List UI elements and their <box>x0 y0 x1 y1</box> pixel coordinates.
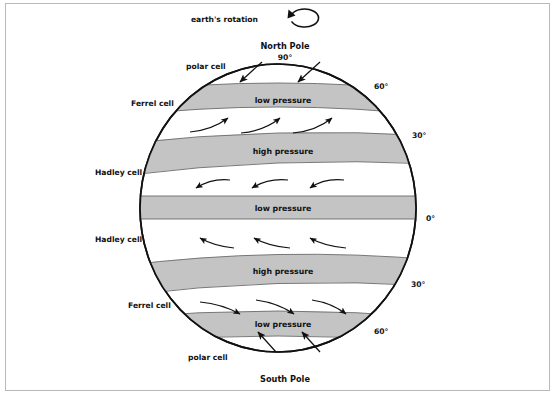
band-label-low-equator: low pressure <box>255 204 312 213</box>
north-pole-label: North Pole <box>260 41 310 51</box>
latitude-label-60n: 60° <box>374 82 389 91</box>
band-label-high-30s: high pressure <box>253 267 314 276</box>
earth-rotation-icon <box>288 9 319 27</box>
band-label-low-60s: low pressure <box>255 320 312 329</box>
cell-label-hadley-north: Hadley cell <box>95 168 142 177</box>
band-label-low-60n: low pressure <box>255 96 312 105</box>
cell-label-polar-north: polar cell <box>186 62 226 71</box>
cell-label-hadley-south: Hadley cell <box>95 235 142 244</box>
band-label-high-30n: high pressure <box>253 147 314 156</box>
cell-label-ferrel-north: Ferrel cell <box>131 99 174 108</box>
circulation-diagram: earth's rotation North Pole 90° polar ce… <box>0 0 555 396</box>
latitude-label-90n: 90° <box>278 53 293 62</box>
latitude-label-30s: 30° <box>411 280 426 289</box>
latitude-label-30n: 30° <box>412 131 427 140</box>
latitude-label-60s: 60° <box>374 327 389 336</box>
diagram-stage: earth's rotation North Pole 90° polar ce… <box>0 0 555 396</box>
cell-label-ferrel-south: Ferrel cell <box>128 301 171 310</box>
cell-label-polar-south: polar cell <box>188 353 228 362</box>
earth-rotation-label: earth's rotation <box>191 15 258 24</box>
south-pole-label: South Pole <box>260 374 310 384</box>
figure-canvas: earth's rotation North Pole 90° polar ce… <box>0 0 555 396</box>
latitude-label-0: 0° <box>426 214 435 223</box>
